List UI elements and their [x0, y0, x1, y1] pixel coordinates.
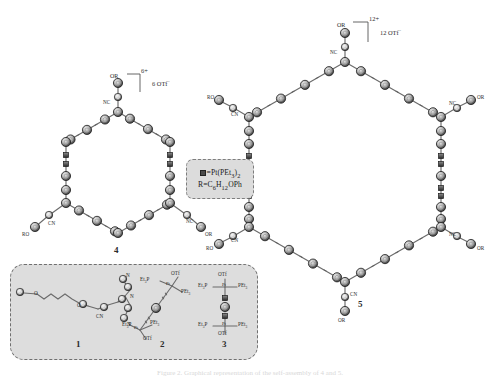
label-5-OR-top: OR — [337, 22, 345, 28]
legend-line-pt: =Pt(PEt3)2 — [200, 168, 241, 179]
legend-line-r: R=C6H12OPh — [198, 180, 242, 191]
label-4-charge: 6+ — [141, 68, 148, 74]
label-5-RO-upper-left: RO — [207, 95, 214, 100]
compound-label-1: 1 — [76, 340, 81, 349]
label-2-OTf-upper: OTf — [171, 271, 180, 276]
label-5-CN-upper-left: CN — [231, 112, 238, 117]
legend-pt-text: =Pt(PEt — [207, 168, 232, 177]
label-1-N-pyridyl-upper: N — [126, 273, 130, 278]
compound-label-2: 2 — [160, 340, 165, 349]
legend-r-head: R=C — [198, 180, 213, 189]
label-5-CN-bottom: CN — [350, 292, 357, 297]
label-2-Et3P-lower: Et3P — [122, 322, 131, 330]
label-4-OR-top: OR — [110, 73, 118, 79]
label-1-O-ether-left: O — [34, 291, 38, 296]
label-4-OR-right: OR — [205, 232, 212, 237]
label-3-PEt3-bottom: PEt3 — [238, 322, 247, 330]
label-2-OTf-lower: OTf — [143, 336, 152, 341]
label-4-CN-left: CN — [48, 221, 55, 226]
label-4-counterion: 6 OTf− — [152, 80, 170, 88]
label-5-NC-upper-right: NC — [449, 101, 456, 106]
label-1-CN: CN — [96, 314, 103, 319]
label-4-RO-left: RO — [22, 232, 29, 237]
label-3-OTf-top: OTf — [218, 272, 227, 277]
label-5-charge: 12+ — [369, 16, 379, 22]
label-5-OR-lower-right: OR — [477, 246, 484, 251]
label-2-Pt-upper: Pt — [166, 282, 170, 287]
label-5-RO-lower-left: RO — [206, 246, 213, 251]
label-2-PEt3-lower: PEt3 — [150, 320, 159, 328]
figure-caption: Figure 2. Graphical representation of th… — [0, 369, 500, 377]
label-3-PEt3-top: PEt3 — [238, 283, 247, 291]
label-5-CN-lower-left: CN — [231, 238, 238, 243]
label-2-Pt-lower: Pt — [134, 326, 138, 331]
label-2-PEt3-upper: PEt3 — [181, 289, 190, 297]
compound-1-beads — [16, 275, 131, 321]
label-4-NC-right: NC — [186, 219, 193, 224]
figure-canvas: =Pt(PEt3)2 R=C6H12OPh OR 6+ 6 OTf− NC RO… — [0, 0, 500, 378]
label-2-Et3P-upper: Et3P — [140, 277, 149, 285]
label-1-N-apex: N — [130, 294, 134, 299]
compound-label-3: 3 — [222, 340, 227, 349]
label-3-Pt-bottom: Pt — [222, 322, 226, 327]
legend-panel: =Pt(PEt3)2 R=C6H12OPh — [186, 159, 254, 199]
compound-label-5: 5 — [358, 300, 363, 309]
label-3-Et3P-bottom: Et3P — [198, 322, 207, 330]
label-5-OR-upper-right: OR — [477, 95, 484, 100]
label-5-counterion: 12 OTf− — [380, 29, 401, 37]
legend-pt-sub2: 2 — [237, 172, 240, 179]
label-5-NC-lower-right: NC — [449, 232, 456, 237]
label-5-OR-bottom: OR — [338, 318, 345, 323]
pt-square-icon — [200, 170, 206, 176]
compound-label-4: 4 — [114, 246, 119, 255]
label-4-NC-top: NC — [103, 100, 110, 105]
legend-r-tail: OPh — [228, 180, 242, 189]
label-3-Pt-top: Pt — [222, 283, 226, 288]
compound-3-beads — [220, 296, 229, 319]
label-3-Et3P-top: Et3P — [198, 283, 207, 291]
label-3-OTf-bottom: OTf — [218, 331, 227, 336]
label-5-NC-top: NC — [330, 50, 337, 55]
label-1-O-ether-right: O — [77, 303, 81, 308]
